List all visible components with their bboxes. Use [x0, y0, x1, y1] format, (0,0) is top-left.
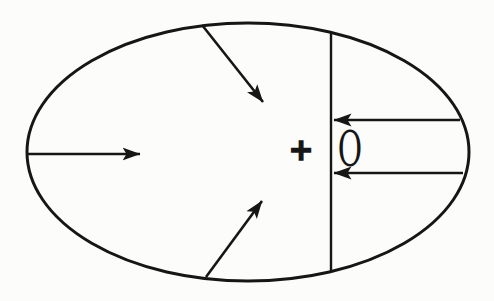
arrows-group [27, 25, 463, 277]
origin-plus-marker: + [288, 132, 313, 167]
origin-label: O [338, 121, 362, 176]
arrow-bottom-inward [206, 201, 262, 277]
ellipse-field-diagram: + O [0, 0, 494, 301]
figure-canvas: + O [0, 0, 494, 301]
ellipse-outline [27, 23, 469, 281]
arrow-top-inward [202, 25, 263, 102]
